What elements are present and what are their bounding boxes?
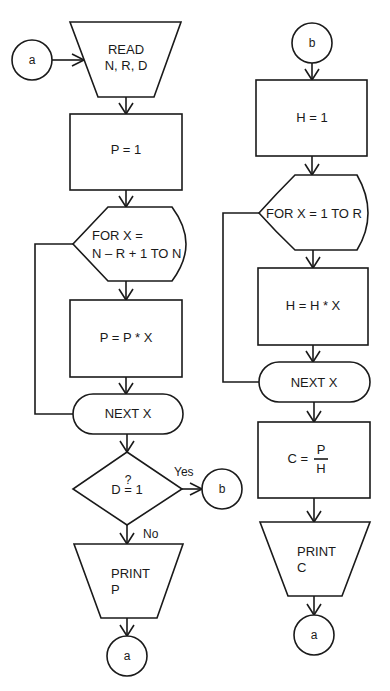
print-p-label: PRINT [111,566,150,581]
left-exit-connector: a [107,636,147,676]
left-loop-line1: FOR X = [92,228,143,243]
right-exit-connector: a [294,615,334,655]
no-label: No [143,527,159,541]
right-exit-connector-label: a [311,628,318,642]
arrow-c-to-print [307,498,321,522]
arrow-yes-to-b [182,483,202,495]
arrow-p1-to-for [119,190,133,207]
right-next-text: NEXT X [291,375,338,390]
read-input-box: READ N, R, D [70,22,181,97]
flowchart: a READ N, R, D P = 1 FOR X = N – R + 1 T… [0,0,390,691]
c-numerator: P [317,442,326,457]
left-loop-end: NEXT X [73,394,183,434]
right-loop-end: NEXT X [259,362,370,402]
arrow-a-to-read [52,54,84,66]
h-multiply-text: H = H * X [286,298,341,313]
h-multiply-box: H = H * X [258,268,368,345]
p-init-text: P = 1 [111,142,141,157]
c-denominator: H [316,461,325,476]
h-init-text: H = 1 [296,110,327,125]
arrow-printc-to-a [307,596,321,615]
right-entry-connector: b [292,23,332,63]
decision-d-equals-1: ? D = 1 [73,452,182,525]
print-c-var: C [297,560,306,575]
yes-label: Yes [174,465,194,479]
left-loop-line2: N – R + 1 TO N [92,246,181,261]
right-loop-back-line [223,213,259,382]
arrow-b-to-h1 [305,63,319,80]
left-yes-connector: b [202,469,242,509]
left-loop-start: FOR X = N – R + 1 TO N [73,207,186,281]
right-loop-text: FOR X = 1 TO R [266,206,362,221]
arrow-print-to-a [120,618,134,636]
arrow-hbody-to-next [306,345,320,362]
read-label: READ [108,42,144,57]
left-loop-back-line [35,244,73,414]
left-next-text: NEXT X [105,406,152,421]
arrow-for-to-hbody [306,250,320,268]
left-yes-connector-label: b [219,482,226,496]
right-entry-connector-label: b [309,36,316,50]
arrow-for-to-body [119,281,133,300]
p-multiply-text: P = P * X [100,330,153,345]
left-entry-connector: a [12,40,52,80]
left-exit-connector-label: a [124,649,131,663]
p-init-box: P = 1 [70,114,182,190]
h-init-box: H = 1 [256,80,367,156]
arrow-next-to-decision [120,434,134,452]
print-p-var: P [111,582,120,597]
arrow-no-to-print [120,525,134,544]
p-multiply-box: P = P * X [70,300,182,377]
print-c-box: PRINT C [260,522,370,596]
arrow-read-to-p1 [119,97,133,114]
decision-text: D = 1 [111,482,142,497]
right-loop-start: FOR X = 1 TO R [259,175,368,250]
read-vars: N, R, D [105,58,148,73]
print-p-box: PRINT P [74,544,183,618]
c-compute-box: C = P H [258,422,370,498]
print-c-label: PRINT [297,544,336,559]
arrow-h1-to-for [305,156,319,175]
arrow-body-to-next [119,377,133,394]
c-lhs: C = [287,451,308,466]
arrow-next-to-c [307,402,321,422]
left-entry-connector-label: a [29,53,36,67]
